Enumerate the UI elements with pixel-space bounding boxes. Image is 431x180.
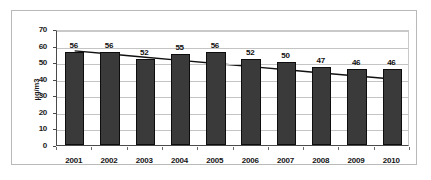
- bar-value-label: 46: [377, 58, 405, 67]
- x-tick-label: 2004: [163, 156, 197, 165]
- y-tick-mark: [53, 96, 56, 97]
- y-tick-label: 50: [17, 58, 47, 67]
- y-tick-mark: [53, 113, 56, 114]
- y-tick-label: 10: [17, 124, 47, 133]
- bar-value-label: 56: [201, 41, 229, 50]
- y-tick-label: 0: [17, 141, 47, 150]
- chart-figure: µg/m3 010203040506070 200120022003200420…: [0, 0, 431, 180]
- bar: [136, 59, 155, 145]
- bar-value-label: 55: [166, 43, 194, 52]
- x-tick-label: 2007: [268, 156, 302, 165]
- bar-value-label: 56: [95, 41, 123, 50]
- bar-value-label: 47: [307, 56, 335, 65]
- x-tick-mark: [303, 147, 304, 150]
- y-tick-label: 20: [17, 108, 47, 117]
- bar-value-label: 52: [130, 48, 158, 57]
- bar: [383, 69, 402, 145]
- x-tick-mark: [233, 147, 234, 150]
- x-axis: 2001200220032004200520062007200820092010: [56, 147, 409, 177]
- x-tick-label: 2001: [57, 156, 91, 165]
- y-tick-label: 30: [17, 91, 47, 100]
- x-tick-label: 2005: [198, 156, 232, 165]
- bar-value-label: 52: [236, 48, 264, 57]
- x-tick-mark: [162, 147, 163, 150]
- x-tick-mark: [91, 147, 92, 150]
- x-tick-label: 2002: [92, 156, 126, 165]
- x-tick-mark: [374, 147, 375, 150]
- x-tick-label: 2010: [374, 156, 408, 165]
- bar-value-label: 50: [271, 51, 299, 60]
- bar-value-label: 46: [342, 58, 370, 67]
- bar: [65, 52, 84, 145]
- x-tick-mark: [56, 147, 57, 150]
- bar: [312, 67, 331, 145]
- bar: [241, 59, 260, 145]
- x-tick-label: 2003: [127, 156, 161, 165]
- y-tick-label: 60: [17, 42, 47, 51]
- y-tick-mark: [53, 80, 56, 81]
- x-tick-mark: [197, 147, 198, 150]
- bar: [206, 52, 225, 145]
- x-tick-mark: [127, 147, 128, 150]
- bar-value-label: 56: [60, 41, 88, 50]
- gridline: [57, 31, 408, 32]
- bar: [100, 52, 119, 145]
- y-tick-mark: [53, 30, 56, 31]
- x-tick-label: 2008: [304, 156, 338, 165]
- y-tick-mark: [53, 63, 56, 64]
- y-tick-mark: [53, 47, 56, 48]
- y-tick-mark: [53, 129, 56, 130]
- bar: [171, 54, 190, 145]
- y-tick-label: 70: [17, 25, 47, 34]
- bar: [277, 62, 296, 145]
- y-tick-label: 40: [17, 75, 47, 84]
- x-tick-mark: [409, 147, 410, 150]
- bar: [347, 69, 366, 145]
- x-tick-mark: [338, 147, 339, 150]
- chart-frame: µg/m3 010203040506070 200120022003200420…: [11, 10, 417, 165]
- x-tick-mark: [268, 147, 269, 150]
- x-tick-label: 2006: [233, 156, 267, 165]
- x-tick-label: 2009: [339, 156, 373, 165]
- y-axis: µg/m3 010203040506070: [12, 11, 56, 180]
